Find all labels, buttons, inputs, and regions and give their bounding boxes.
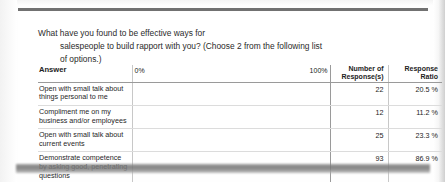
answer-label: Open with small talk about current event… — [38, 129, 132, 152]
bar-track — [135, 109, 327, 118]
answer-label: Compliment me on my business and/or empl… — [38, 106, 132, 129]
axis-tick-max: 100% — [310, 67, 328, 74]
column-header-response-ratio: Response Ratio — [388, 65, 442, 82]
header-rule — [18, 8, 428, 11]
column-header-number-line1: Number of — [349, 65, 384, 72]
answer-label: Open with small talk about things person… — [38, 82, 132, 105]
column-header-number-of-responses: Number of Response(s) — [330, 65, 388, 82]
scan-edge-top — [0, 0, 445, 6]
header-row: Answer 0% 100% Number of Response(s) Res… — [38, 65, 442, 82]
column-header-ratio-line1: Response — [405, 65, 438, 72]
response-ratio: 11.2 % — [388, 106, 442, 129]
column-header-chart-axis: 0% 100% — [132, 65, 330, 82]
bar-track — [135, 86, 327, 95]
axis-tick-min: 0% — [135, 67, 145, 74]
scan-edge-left — [0, 0, 17, 182]
bar-cell — [132, 82, 330, 105]
question-line-1: What have you found to be effective ways… — [38, 27, 368, 40]
table-header: Answer 0% 100% Number of Response(s) Res… — [38, 65, 442, 82]
bar-track — [135, 132, 327, 141]
question-text: What have you found to be effective ways… — [38, 27, 368, 67]
bar-cell — [132, 129, 330, 152]
bar-cell — [132, 106, 330, 129]
chart-axis: 0% 100% — [133, 65, 330, 74]
table-row: Open with small talk about current event… — [38, 129, 442, 152]
column-header-answer: Answer — [38, 65, 132, 82]
scan-shadow-bottom — [16, 164, 430, 173]
response-count: 25 — [330, 129, 388, 152]
question-line-2: salespeople to build rapport with you? (… — [38, 40, 368, 53]
table-row: Compliment me on my business and/or empl… — [38, 106, 442, 129]
survey-results-page: What have you found to be effective ways… — [0, 0, 445, 182]
table-row: Open with small talk about things person… — [38, 82, 442, 105]
column-header-number-line2: Response(s) — [341, 73, 383, 80]
result-sheet: What have you found to be effective ways… — [18, 12, 430, 162]
response-count: 12 — [330, 106, 388, 129]
response-count: 22 — [330, 82, 388, 105]
column-header-ratio-line2: Ratio — [421, 73, 439, 80]
response-ratio: 23.3 % — [388, 129, 442, 152]
response-ratio: 20.5 % — [388, 82, 442, 105]
